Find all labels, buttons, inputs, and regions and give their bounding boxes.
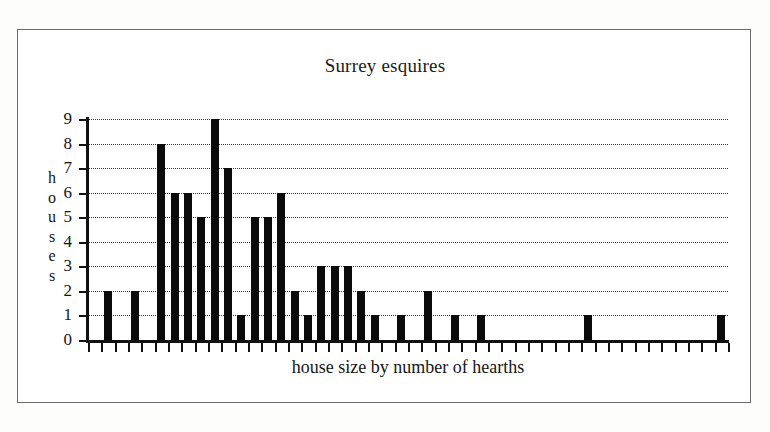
x-axis-tick xyxy=(355,343,357,352)
y-axis-tick xyxy=(79,168,87,170)
bar xyxy=(264,217,272,340)
x-axis-tick xyxy=(528,343,530,352)
bar xyxy=(304,315,312,340)
y-axis-tick-label: 9 xyxy=(50,110,72,127)
bar xyxy=(397,315,405,340)
x-axis-tick xyxy=(701,343,703,352)
y-axis-tick xyxy=(79,144,87,146)
x-axis-tick xyxy=(408,343,410,352)
bar xyxy=(357,291,365,340)
bar xyxy=(584,315,592,340)
x-axis-tick xyxy=(675,343,677,352)
figure-canvas: Surrey esquires houses 0123456789 house … xyxy=(0,0,770,432)
x-axis-tick xyxy=(181,343,183,352)
x-axis-tick xyxy=(461,343,463,352)
bar xyxy=(317,266,325,340)
x-axis-tick xyxy=(288,343,290,352)
x-axis-tick xyxy=(661,343,663,352)
bar xyxy=(424,291,432,340)
bar xyxy=(184,193,192,340)
gridline xyxy=(88,119,728,120)
bar xyxy=(291,291,299,340)
x-axis-tick xyxy=(515,343,517,352)
x-axis-tick xyxy=(221,343,223,352)
bar xyxy=(197,217,205,340)
bar xyxy=(344,266,352,340)
gridline xyxy=(88,168,728,169)
y-axis-line xyxy=(86,117,89,343)
bar xyxy=(104,291,112,340)
bar xyxy=(371,315,379,340)
bar xyxy=(477,315,485,340)
plot-area xyxy=(88,119,728,340)
bar xyxy=(251,217,259,340)
x-axis-tick xyxy=(541,343,543,352)
x-axis-tick xyxy=(635,343,637,352)
x-axis-tick xyxy=(275,343,277,352)
x-axis-tick xyxy=(595,343,597,352)
x-axis-tick xyxy=(368,343,370,352)
x-axis-tick xyxy=(115,343,117,352)
bar xyxy=(224,168,232,340)
bar xyxy=(211,119,219,340)
x-axis-tick xyxy=(341,343,343,352)
chart-title: Surrey esquires xyxy=(0,55,770,77)
x-axis-tick xyxy=(728,343,730,352)
x-axis-tick xyxy=(715,343,717,352)
x-axis-tick xyxy=(488,343,490,352)
x-axis-tick xyxy=(301,343,303,352)
bar xyxy=(157,144,165,340)
y-axis-tick-label: 3 xyxy=(50,257,72,274)
x-axis-tick xyxy=(621,343,623,352)
x-axis-tick xyxy=(448,343,450,352)
x-axis-tick xyxy=(88,343,90,352)
x-axis-tick xyxy=(555,343,557,352)
y-axis-tick-label: 5 xyxy=(50,208,72,225)
x-axis-tick xyxy=(608,343,610,352)
y-axis-tick-label: 1 xyxy=(50,306,72,323)
x-axis-tick xyxy=(475,343,477,352)
x-axis-tick xyxy=(195,343,197,352)
x-axis-tick xyxy=(688,343,690,352)
x-axis-tick xyxy=(128,343,130,352)
bar xyxy=(277,193,285,340)
x-axis-tick xyxy=(141,343,143,352)
y-axis-tick-label: 7 xyxy=(50,159,72,176)
x-axis-tick xyxy=(568,343,570,352)
x-axis-tick xyxy=(648,343,650,352)
y-axis-tick-label: 2 xyxy=(50,282,72,299)
bar xyxy=(717,315,725,340)
y-axis-tick xyxy=(79,340,87,342)
y-axis-tick-label: 4 xyxy=(50,233,72,250)
x-axis-tick xyxy=(581,343,583,352)
bar xyxy=(331,266,339,340)
y-axis-tick xyxy=(79,242,87,244)
x-axis-tick xyxy=(501,343,503,352)
y-axis-tick xyxy=(79,193,87,195)
x-axis-tick xyxy=(208,343,210,352)
x-axis-tick xyxy=(328,343,330,352)
y-axis-tick xyxy=(79,217,87,219)
y-axis-tick xyxy=(79,119,87,121)
y-axis-tick xyxy=(79,266,87,268)
x-axis-tick xyxy=(395,343,397,352)
y-axis-tick-label: 8 xyxy=(50,135,72,152)
x-axis-tick xyxy=(235,343,237,352)
x-axis-tick xyxy=(381,343,383,352)
x-axis-tick xyxy=(101,343,103,352)
x-axis-tick xyxy=(315,343,317,352)
bar xyxy=(171,193,179,340)
x-axis-tick xyxy=(421,343,423,352)
y-axis-tick-label: 0 xyxy=(50,331,72,348)
bar xyxy=(451,315,459,340)
x-axis-tick xyxy=(168,343,170,352)
x-axis-title: house size by number of hearths xyxy=(88,357,728,378)
bar xyxy=(131,291,139,340)
y-axis-tick xyxy=(79,315,87,317)
bar xyxy=(237,315,245,340)
y-axis-tick-label: 6 xyxy=(50,184,72,201)
gridline xyxy=(88,144,728,145)
x-axis-tick xyxy=(248,343,250,352)
x-axis-tick xyxy=(261,343,263,352)
y-axis-tick xyxy=(79,291,87,293)
